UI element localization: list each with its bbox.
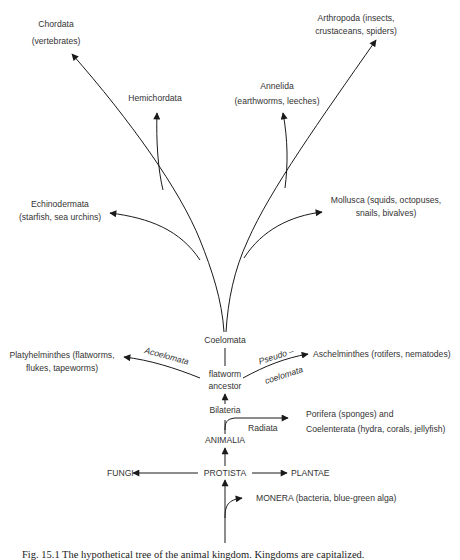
protista-label: PROTISTA xyxy=(204,467,246,479)
porifera-line1: Porifera (sponges) and xyxy=(306,408,445,420)
coelenterata-line: Coelenterata (hydra, corals, jellyfish) xyxy=(306,423,445,435)
echinodermata-examples: (starfish, sea urchins) xyxy=(19,211,101,223)
echinodermata-branch xyxy=(110,213,200,260)
figure-caption: Fig. 15.1 The hypothetical tree of the a… xyxy=(22,549,364,560)
annelida-name: Annelida xyxy=(234,80,319,92)
echinodermata-label: Echinodermata (starfish, sea urchins) xyxy=(19,198,101,223)
flatworm-ancestor-line1: flatworm xyxy=(209,368,242,380)
mollusca-line2: snails, bivalves) xyxy=(331,207,441,219)
monera-branch xyxy=(225,498,242,518)
chordata-examples: (vertebrates) xyxy=(32,35,81,47)
coelomata-label: Coelomata xyxy=(204,334,246,346)
porifera-label: Porifera (sponges) and Coelenterata (hyd… xyxy=(306,408,445,435)
animalia-label: ANIMALIA xyxy=(205,434,245,446)
annelida-branch xyxy=(283,113,287,188)
hemichordata-label: Hemichordata xyxy=(128,92,182,104)
plantae-label: PLANTAE xyxy=(291,467,330,479)
monera-label: MONERA (bacteria, blue-green alga) xyxy=(256,492,396,504)
mollusca-line1: Mollusca (squids, octopuses, xyxy=(331,194,441,206)
echinodermata-name: Echinodermata xyxy=(19,198,101,210)
annelida-label: Annelida (earthworms, leeches) xyxy=(234,80,319,107)
annelida-examples: (earthworms, leeches) xyxy=(234,95,319,107)
platyhelminthes-line1: Platyhelminthes (flatworms, xyxy=(9,349,114,361)
chordata-name: Chordata xyxy=(32,18,81,30)
mollusca-label: Mollusca (squids, octopuses, snails, biv… xyxy=(331,194,441,219)
platyhelminthes-line2: flukes, tapeworms) xyxy=(9,362,114,374)
flatworm-ancestor-label: flatworm ancestor xyxy=(209,368,242,392)
mollusca-branch xyxy=(244,212,322,258)
arthropoda-line1: Arthropoda (insects, xyxy=(315,12,397,24)
platyhelminthes-label: Platyhelminthes (flatworms, flukes, tape… xyxy=(9,349,114,374)
bilateria-label: Bilateria xyxy=(209,404,240,416)
radiata-label: Radiata xyxy=(248,422,278,434)
arthropoda-line2: crustaceans, spiders) xyxy=(315,25,397,37)
flatworm-ancestor-line2: ancestor xyxy=(209,380,242,392)
hemichordata-branch xyxy=(157,113,163,190)
fungi-label: FUNGI xyxy=(107,467,134,479)
aschelminthes-label: Aschelminthes (rotifers, nematodes) xyxy=(313,348,451,360)
arthropoda-label: Arthropoda (insects, crustaceans, spider… xyxy=(315,12,397,37)
chordata-label: Chordata (vertebrates) xyxy=(32,18,81,47)
